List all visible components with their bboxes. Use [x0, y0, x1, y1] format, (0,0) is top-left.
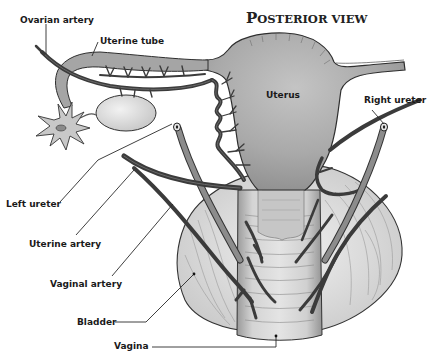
- label-uterus: Uterus: [266, 90, 300, 100]
- left-uterine-artery-trunk: [124, 156, 240, 188]
- diagram-canvas: POSTERIOR VIEW Ovarian artery Uterine tu…: [0, 0, 431, 356]
- anatomy-diagram: POSTERIOR VIEW Ovarian artery Uterine tu…: [0, 0, 431, 356]
- diagram-title: POSTERIOR VIEW: [246, 9, 369, 27]
- label-vagina: Vagina: [114, 341, 149, 351]
- label-right-ureter: Right ureter: [364, 95, 427, 105]
- label-ovarian-artery: Ovarian artery: [20, 15, 94, 25]
- fimbriae: [36, 102, 90, 150]
- label-bladder: Bladder: [77, 317, 117, 327]
- leader-uterine-artery: [76, 170, 134, 235]
- label-vaginal-artery: Vaginal artery: [50, 279, 122, 289]
- label-uterine-artery: Uterine artery: [29, 239, 101, 249]
- ovary: [96, 95, 156, 131]
- vagina: [237, 170, 322, 340]
- leader-vaginal-artery: [112, 204, 173, 276]
- label-left-ureter: Left ureter: [6, 199, 62, 209]
- label-uterine-tube: Uterine tube: [100, 36, 164, 46]
